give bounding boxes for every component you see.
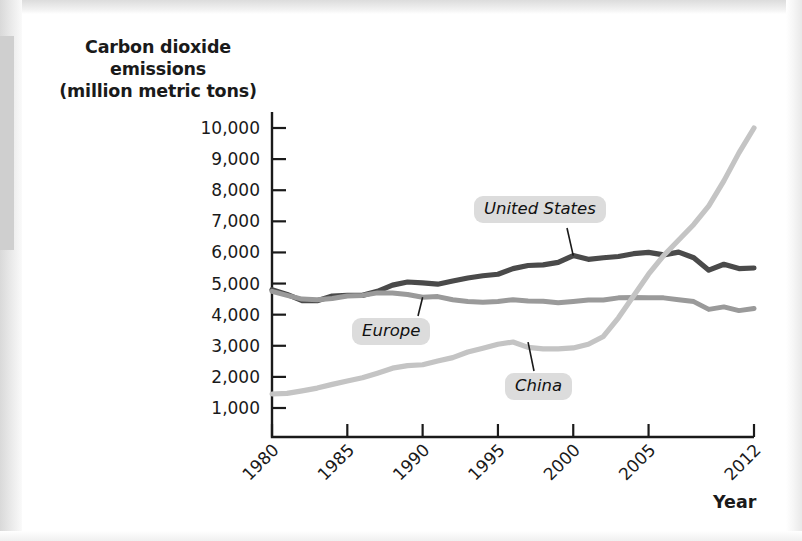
y-tick-label: 6,000 — [211, 242, 260, 262]
y-tick-label: 10,000 — [201, 118, 260, 138]
series-line-united-states — [272, 252, 754, 301]
y-tick-label: 1,000 — [211, 398, 260, 418]
series-line-europe — [272, 291, 754, 310]
y-tick-label: 3,000 — [211, 336, 260, 356]
y-tick-label: 9,000 — [211, 149, 260, 169]
y-axis-tick-labels: 1,0002,0003,0004,0005,0006,0007,0008,000… — [201, 118, 260, 418]
callout-leader-line — [418, 297, 423, 316]
series-lines — [272, 128, 754, 394]
y-tick-label: 5,000 — [211, 274, 260, 294]
x-tick-label: 2005 — [615, 440, 660, 485]
x-tick-label: 2000 — [539, 440, 584, 485]
x-axis-ticks — [272, 424, 754, 437]
x-tick-label: 1980 — [238, 440, 283, 485]
series-label-united-states: United States — [474, 196, 606, 223]
chart-canvas: 1,0002,0003,0004,0005,0006,0007,0008,000… — [0, 0, 802, 541]
x-axis-title: Year — [713, 492, 756, 512]
callout-leader-line — [567, 228, 573, 256]
y-axis-ticks — [272, 128, 286, 408]
y-tick-label: 8,000 — [211, 180, 260, 200]
x-tick-label: 1985 — [313, 440, 358, 485]
series-label-europe: Europe — [352, 318, 430, 345]
y-tick-label: 7,000 — [211, 211, 260, 231]
y-tick-label: 2,000 — [211, 367, 260, 387]
x-tick-label: 1995 — [464, 440, 509, 485]
x-axis-tick-labels: 1980198519901995200020052012 — [238, 440, 765, 485]
x-tick-label: 2012 — [720, 440, 765, 485]
y-tick-label: 4,000 — [211, 305, 260, 325]
chart-figure: Carbon dioxide emissions (million metric… — [0, 0, 802, 541]
x-tick-label: 1990 — [389, 440, 434, 485]
series-label-china: China — [505, 373, 572, 400]
series-line-china — [272, 128, 754, 394]
